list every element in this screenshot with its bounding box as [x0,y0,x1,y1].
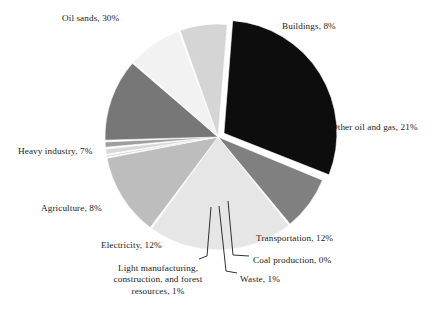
slice-label-transportation: Transportation, 12% [256,233,333,244]
pie-chart-figure: Oil sands, 30% Buildings, 8% Other oil a… [0,0,439,319]
pie-slices [105,21,337,250]
slice-label-agriculture: Agriculture, 8% [41,203,102,214]
slice-label-light-manufacturing: Light manufacturing, construction, and f… [96,263,220,297]
slice-label-light-manufacturing-line-3: resources, 1% [132,286,185,296]
slice-label-buildings: Buildings, 8% [282,21,336,32]
slice-label-electricity: Electricity, 12% [101,240,162,251]
slice-label-light-manufacturing-line-1: Light manufacturing, [118,263,198,273]
slice-label-other-oil-and-gas: Other oil and gas, 21% [331,122,418,133]
slice-label-coal-production: Coal production, 0% [253,255,331,266]
slice-label-light-manufacturing-line-2: construction, and forest [114,274,203,284]
slice-label-waste: Waste, 1% [240,274,280,285]
slice-label-heavy-industry: Heavy industry, 7% [18,146,92,157]
slice-label-oil-sands: Oil sands, 30% [62,13,119,24]
